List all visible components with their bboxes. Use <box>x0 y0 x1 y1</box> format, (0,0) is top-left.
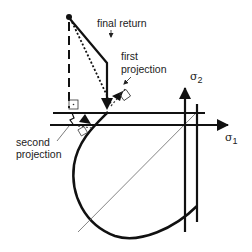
final-return-path <box>70 19 107 104</box>
sigma1-symbol: σ <box>225 131 233 144</box>
second-projection-label-line2: projection <box>16 148 62 160</box>
diagram-canvas: final return first projection second pro… <box>0 0 252 252</box>
second-projection-zigzag <box>70 113 74 124</box>
first-projection-leader <box>124 77 131 84</box>
second-projection-label-line1: second <box>16 136 50 148</box>
sigma1-label: σ1 <box>225 131 238 146</box>
first-projection-label-line2: projection <box>121 63 167 75</box>
second-projection-arrowhead <box>79 114 91 124</box>
diagonal-line <box>78 112 197 232</box>
final-return-arrowhead <box>101 98 113 110</box>
sigma1-subscript: 1 <box>233 136 238 146</box>
sigma2-subscript: 2 <box>198 75 203 85</box>
sigma2-symbol: σ <box>190 70 198 83</box>
diagram-graphics <box>0 0 252 252</box>
first-projection-path <box>72 22 111 104</box>
first-projection-label-line1: first <box>121 50 138 62</box>
sigma2-label: σ2 <box>190 70 203 85</box>
second-projection-leader <box>57 126 69 141</box>
final-return-label: final return <box>97 17 147 29</box>
